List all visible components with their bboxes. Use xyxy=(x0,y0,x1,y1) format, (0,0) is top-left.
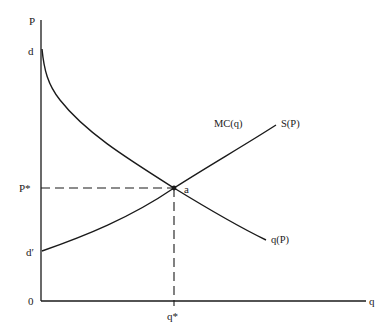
demand-intercept-label: d xyxy=(28,45,34,57)
demand-curve xyxy=(42,49,266,240)
x-axis-label: q xyxy=(369,295,375,307)
equilibrium-quantity-label: q* xyxy=(167,310,178,322)
equilibrium-point-label: a xyxy=(184,183,189,195)
equilibrium-price-label: P* xyxy=(19,182,31,194)
origin-label: 0 xyxy=(28,295,34,307)
supply-intercept-label: d′ xyxy=(26,246,34,258)
y-axis-label: P xyxy=(29,15,35,27)
demand-curve-label: q(P) xyxy=(271,234,290,246)
mc-curve-label: MC(q) xyxy=(214,118,243,130)
supply-curve-label: S(P) xyxy=(281,118,300,130)
equilibrium-point xyxy=(172,186,177,191)
supply-demand-chart: P q 0 d d′ P* q* a MC(q) S(P) q(P) xyxy=(0,0,391,333)
